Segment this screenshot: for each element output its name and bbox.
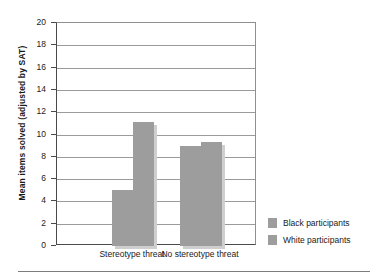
- bar: [112, 190, 133, 246]
- y-tick-label: 4: [6, 196, 46, 205]
- y-tick-mark: [51, 67, 56, 68]
- gridline: [57, 68, 255, 69]
- y-tick-mark: [51, 89, 56, 90]
- y-tick-label: 2: [6, 219, 46, 228]
- y-tick-mark: [51, 200, 56, 201]
- y-tick-mark: [51, 245, 56, 246]
- y-tick-mark: [51, 44, 56, 45]
- y-tick-label: 20: [6, 18, 46, 27]
- gridline: [57, 90, 255, 91]
- y-tick-label: 18: [6, 40, 46, 49]
- gridline: [57, 112, 255, 113]
- chart-figure: Mean items solved (adjusted by SAT) 2018…: [0, 0, 381, 280]
- legend-swatch-icon: [268, 218, 277, 228]
- chart-legend: Black participantsWhite participants: [268, 214, 378, 248]
- y-tick-label: 14: [6, 85, 46, 94]
- y-tick-mark: [51, 223, 56, 224]
- y-tick-label: 6: [6, 174, 46, 183]
- bar: [133, 122, 154, 246]
- y-tick-mark: [51, 178, 56, 179]
- legend-swatch-icon: [268, 235, 277, 245]
- bottom-divider: [18, 271, 370, 272]
- bar: [201, 142, 222, 246]
- y-tick-label: 12: [6, 107, 46, 116]
- legend-label: Black participants: [283, 218, 350, 228]
- y-tick-label: 10: [6, 130, 46, 139]
- plot-area: [56, 22, 256, 245]
- gridline: [57, 45, 255, 46]
- y-tick-label: 16: [6, 63, 46, 72]
- legend-label: White participants: [283, 235, 351, 245]
- legend-item: White participants: [268, 231, 378, 248]
- y-tick-mark: [51, 156, 56, 157]
- bar: [180, 146, 201, 246]
- x-axis-label: No stereotype threat: [140, 249, 260, 259]
- y-tick-label: 0: [6, 241, 46, 250]
- legend-item: Black participants: [268, 214, 378, 231]
- y-tick-mark: [51, 22, 56, 23]
- y-tick-label: 8: [6, 152, 46, 161]
- y-tick-mark: [51, 111, 56, 112]
- y-tick-mark: [51, 134, 56, 135]
